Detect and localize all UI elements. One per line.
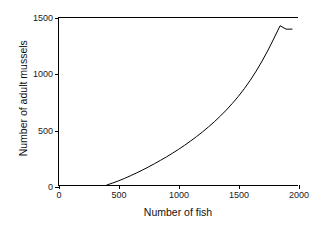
curve-svg <box>59 18 298 185</box>
y-tick-label: 1500 <box>33 14 53 23</box>
x-tick-mark <box>59 185 60 189</box>
x-tick-mark <box>239 185 240 189</box>
y-tick-label: 0 <box>48 183 53 192</box>
y-axis-title: Number of adult mussels <box>18 28 29 168</box>
x-tick-mark <box>179 185 180 189</box>
x-tick-label: 0 <box>56 191 61 200</box>
chart-figure: 0500100015000500100015002000 Number of a… <box>0 0 321 232</box>
x-tick-label: 2000 <box>289 191 309 200</box>
x-tick-label: 1000 <box>169 191 189 200</box>
x-tick-mark <box>119 185 120 189</box>
x-tick-label: 500 <box>111 191 126 200</box>
x-tick-mark <box>299 185 300 189</box>
y-tick-label: 1000 <box>33 70 53 79</box>
x-axis-title: Number of fish <box>58 207 298 218</box>
data-series-line <box>107 26 292 185</box>
y-tick-mark <box>55 74 59 75</box>
x-tick-label: 1500 <box>229 191 249 200</box>
y-tick-label: 500 <box>38 126 53 135</box>
y-tick-mark <box>55 18 59 19</box>
plot-area: 0500100015000500100015002000 <box>58 17 298 186</box>
y-tick-mark <box>55 131 59 132</box>
